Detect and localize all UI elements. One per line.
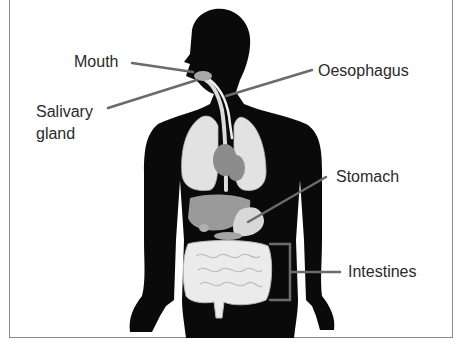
salivary-leader	[108, 80, 197, 108]
gallbladder	[199, 224, 209, 232]
label-oesophagus: Oesophagus	[318, 61, 409, 80]
label-intestines: Intestines	[348, 262, 416, 281]
label-salivary-gland-line2: gland	[36, 124, 75, 143]
mouth-leader	[132, 63, 193, 72]
label-salivary-gland-line1: Salivary	[36, 102, 93, 121]
pancreas	[214, 232, 242, 240]
label-stomach: Stomach	[336, 167, 399, 186]
label-mouth: Mouth	[74, 52, 118, 71]
digestive-system-diagram: Mouth Salivary gland Oesophagus Stomach …	[0, 0, 461, 347]
